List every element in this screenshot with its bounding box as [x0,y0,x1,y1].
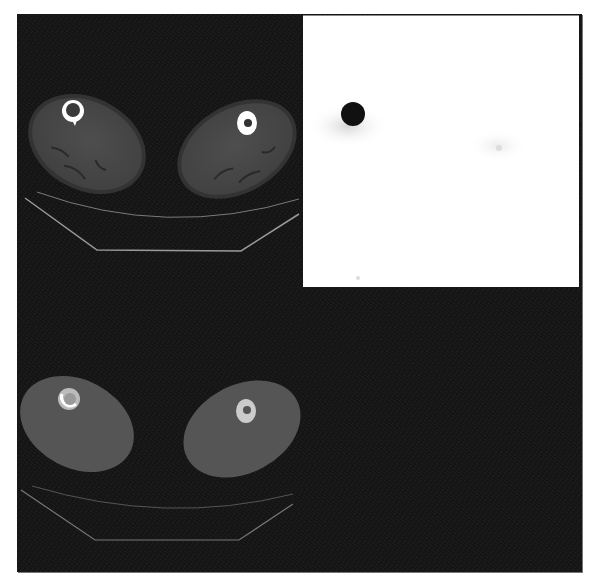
right-femur [237,111,257,135]
ct-panel [17,14,303,286]
pet-hotspot [341,102,365,126]
fused-left-femur [58,388,80,410]
scanner-table [25,198,299,251]
fused-right-femur [236,399,256,423]
pet-panel [303,15,579,287]
scan-figure [17,14,582,572]
right-thigh [160,79,303,219]
fused-panel [17,314,317,564]
figure-caption [0,574,596,583]
